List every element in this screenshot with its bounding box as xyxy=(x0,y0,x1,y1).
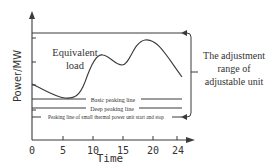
basic-peaking-label: Basic peaking line xyxy=(91,97,136,103)
y-axis-arrow-icon xyxy=(29,11,35,19)
x-tick-24: 24 xyxy=(172,145,184,156)
small-thermal-peaking-line: Peaking line of small thermal power unit… xyxy=(32,114,187,120)
x-tick-20: 20 xyxy=(147,145,159,156)
y-axis xyxy=(29,11,36,140)
small-thermal-peaking-label: Peaking line of small thermal power unit… xyxy=(48,114,164,120)
chart-diagram: 0 5 10 15 20 24 Time Power/MW Basic peak… xyxy=(0,0,272,163)
load-label-line1: Equivalent xyxy=(52,47,98,58)
adjustment-range-label: The adjustment range of adjustable unit xyxy=(203,50,265,87)
range-label-line1: The adjustment xyxy=(203,50,265,61)
deep-peaking-label: Deep peaking line xyxy=(90,106,134,112)
load-label-line2: load xyxy=(66,60,85,71)
range-label-line3: adjustable unit xyxy=(205,76,264,87)
x-axis-arrow-icon xyxy=(186,137,195,143)
x-axis xyxy=(32,136,195,143)
x-tick-5: 5 xyxy=(60,145,66,156)
top-limit-line xyxy=(32,30,187,36)
deep-peaking-line: Deep peaking line xyxy=(32,106,182,112)
x-axis-label: Time xyxy=(97,152,124,163)
range-label-line2: range of xyxy=(217,63,251,74)
x-tick-0: 0 xyxy=(29,145,35,156)
adjustment-range-bracket xyxy=(187,33,198,117)
basic-peaking-line: Basic peaking line xyxy=(32,97,182,103)
y-axis-label: Power/MW xyxy=(12,50,23,102)
